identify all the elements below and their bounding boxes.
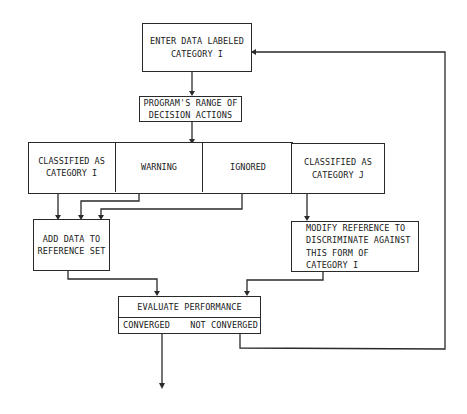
edge-warning-to-add (81, 192, 139, 218)
node-enter-data: ENTER DATA LABELED CATEGORY I (142, 23, 252, 72)
outcome-converged: CONVERGED (123, 318, 185, 332)
decision-warning: WARNING (116, 142, 203, 192)
arrowhead-icon (159, 383, 165, 389)
evaluate-title: EVALUATE PERFORMANCE (119, 297, 260, 318)
edge-add-to-evaluate (68, 270, 157, 294)
node-evaluate: EVALUATE PERFORMANCE CONVERGED NOT CONVE… (118, 296, 261, 334)
decision-ignored: IGNORED (203, 142, 293, 193)
edge-ignored-to-add (101, 193, 242, 218)
edge-not-converged-feedback (240, 52, 445, 349)
edge-modify-to-evaluate (247, 272, 323, 294)
flowchart-canvas: ENTER DATA LABELED CATEGORY I PROGRAM'S … (0, 0, 467, 414)
node-add-data: ADD DATA TO REFERENCE SET (33, 219, 110, 271)
decision-classified-j: CLASSIFIED AS CATEGORY J (291, 143, 385, 194)
outcome-not-converged: NOT CONVERGED (190, 318, 258, 332)
node-decision-range: PROGRAM'S RANGE OF DECISION ACTIONS (139, 96, 242, 122)
decision-classified-i: CLASSIFIED AS CATEGORY I (28, 142, 116, 192)
node-modify-reference: MODIFY REFERENCE TO DISCRIMINATE AGAINST… (291, 221, 419, 272)
